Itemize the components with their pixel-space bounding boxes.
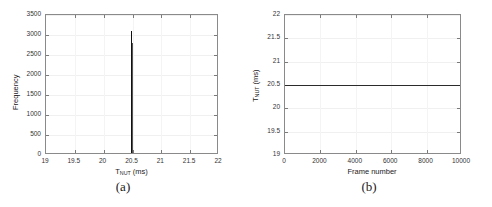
gridline-vertical: [320, 15, 321, 153]
y-tick-mark: [46, 135, 49, 136]
x-tick-mark: [104, 15, 105, 18]
x-tick-label: 21.5: [183, 158, 196, 165]
y-tick-mark: [457, 132, 460, 133]
y-tick-mark: [285, 108, 288, 109]
x-tick-label: 4000: [348, 158, 362, 165]
x-axis-label-b: Frame number: [347, 168, 396, 176]
gridline-vertical: [75, 15, 76, 153]
x-tick-mark: [391, 15, 392, 18]
plot-area-a: [45, 14, 218, 154]
x-tick-mark: [75, 150, 76, 153]
y-tick-label: 21.5: [254, 34, 280, 41]
x-tick-mark: [190, 15, 191, 18]
y-tick-label: 3000: [16, 31, 41, 38]
x-tick-label: 20: [99, 158, 106, 165]
y-tick-mark: [285, 132, 288, 133]
histogram-spike-edge: [132, 43, 133, 153]
x-tick-label: 6000: [383, 158, 397, 165]
gridline-horizontal: [46, 15, 217, 16]
x-axis-label-subscript: NUT: [120, 170, 131, 176]
figure-container: 0 500 1000 1500 2000 2500 3000 3500 19 1…: [0, 0, 492, 207]
gridline-vertical: [356, 15, 357, 153]
x-tick-mark: [356, 15, 357, 18]
y-tick-label: 21: [254, 57, 280, 64]
x-tick-mark: [75, 15, 76, 18]
x-tick-mark: [161, 150, 162, 153]
gridline-horizontal: [285, 38, 460, 39]
plot-area-b: [284, 14, 461, 154]
x-tick-mark: [391, 150, 392, 153]
y-tick-label: 2500: [16, 51, 41, 58]
y-axis-label-subscript: NUT: [254, 87, 260, 98]
x-axis-label-unit: (ms): [131, 167, 148, 176]
gridline-horizontal: [285, 62, 460, 63]
series-line-tnut: [285, 85, 460, 86]
y-tick-mark: [214, 35, 217, 36]
x-tick-mark: [320, 150, 321, 153]
x-tick-mark: [356, 150, 357, 153]
y-tick-label: 1000: [16, 111, 41, 118]
y-tick-label: 19.5: [254, 127, 280, 134]
y-axis-label-a: Frequency: [12, 75, 20, 110]
y-tick-mark: [285, 38, 288, 39]
panel-caption-a: (a): [0, 180, 246, 193]
y-tick-label: 500: [16, 131, 41, 138]
x-tick-label: 19: [41, 158, 48, 165]
y-axis-label-base: T: [251, 97, 260, 102]
y-tick-mark: [214, 95, 217, 96]
x-tick-mark: [161, 15, 162, 18]
x-tick-mark: [190, 150, 191, 153]
y-tick-mark: [214, 75, 217, 76]
y-axis-label-unit: (ms): [251, 69, 260, 86]
gridline-vertical: [391, 15, 392, 153]
x-tick-label: 2000: [312, 158, 326, 165]
y-tick-mark: [214, 55, 217, 56]
y-tick-mark: [46, 75, 49, 76]
x-tick-mark: [427, 150, 428, 153]
x-tick-label: 8000: [418, 158, 432, 165]
y-tick-label: 3500: [16, 11, 41, 18]
x-tick-mark: [133, 15, 134, 18]
x-tick-label: 21: [157, 158, 164, 165]
gridline-vertical: [104, 15, 105, 153]
x-tick-label: 22: [214, 158, 221, 165]
x-tick-mark: [427, 15, 428, 18]
y-tick-mark: [457, 38, 460, 39]
y-tick-mark: [214, 135, 217, 136]
x-tick-label: 0: [282, 158, 286, 165]
y-tick-label: 20: [254, 104, 280, 111]
y-tick-mark: [457, 62, 460, 63]
x-tick-label: 20.5: [125, 158, 138, 165]
x-tick-mark: [133, 150, 134, 153]
y-axis-label-b: TNUT (ms): [252, 69, 260, 102]
gridline-vertical: [427, 15, 428, 153]
panel-caption-b: (b): [246, 180, 492, 193]
gridline-vertical: [190, 15, 191, 153]
gridline-vertical: [133, 15, 134, 153]
panel-a: 0 500 1000 1500 2000 2500 3000 3500 19 1…: [0, 0, 246, 207]
gridline-horizontal: [285, 132, 460, 133]
x-axis-label-a: TNUT (ms): [115, 168, 148, 176]
y-tick-mark: [214, 115, 217, 116]
y-tick-mark: [46, 115, 49, 116]
panel-b: 19 19.5 20 20.5 21 21.5 22 0 2000 4000 6…: [246, 0, 492, 207]
y-tick-label: 0: [16, 151, 41, 158]
y-tick-mark: [46, 55, 49, 56]
x-tick-label: 10000: [452, 158, 470, 165]
y-tick-mark: [46, 35, 49, 36]
gridline-horizontal: [46, 35, 217, 36]
y-tick-label: 19: [254, 151, 280, 158]
gridline-horizontal: [285, 15, 460, 16]
x-tick-mark: [320, 15, 321, 18]
gridline-horizontal: [285, 108, 460, 109]
y-tick-mark: [457, 108, 460, 109]
gridline-vertical: [161, 15, 162, 153]
y-tick-mark: [285, 62, 288, 63]
x-tick-mark: [104, 150, 105, 153]
x-tick-label: 19.5: [67, 158, 80, 165]
y-tick-mark: [46, 95, 49, 96]
y-tick-label: 22: [254, 11, 280, 18]
